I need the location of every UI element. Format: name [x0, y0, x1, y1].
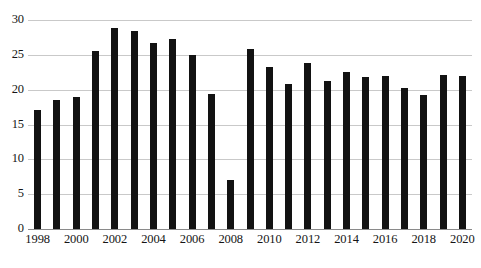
bar-series — [28, 20, 472, 229]
bar-2017 — [401, 88, 408, 229]
y-tick-label-10: 10 — [0, 152, 24, 165]
x-axis-baseline — [28, 229, 472, 230]
bar-2007 — [208, 94, 215, 229]
x-tick-label-2016: 2016 — [365, 232, 405, 246]
bar-2014 — [343, 72, 350, 229]
bar-2010 — [266, 67, 273, 229]
bar-2015 — [362, 77, 369, 229]
bar-2011 — [285, 84, 292, 229]
x-tick-label-2006: 2006 — [172, 232, 212, 246]
bar-2019 — [440, 75, 447, 229]
x-tick-label-2000: 2000 — [56, 232, 96, 246]
x-tick-label-2002: 2002 — [95, 232, 135, 246]
y-tick-label-30: 30 — [0, 13, 24, 26]
bar-2002 — [111, 28, 118, 229]
bar-2001 — [92, 51, 99, 229]
bar-2018 — [420, 95, 427, 229]
x-tick-label-1998: 1998 — [18, 232, 58, 246]
y-tick-label-20: 20 — [0, 83, 24, 96]
bar-chart: 051015202530 199820002002200420062008201… — [0, 0, 481, 268]
bar-2009 — [247, 49, 254, 229]
bar-2020 — [459, 76, 466, 229]
x-tick-label-2014: 2014 — [327, 232, 367, 246]
y-tick-label-5: 5 — [0, 187, 24, 200]
x-tick-label-2008: 2008 — [211, 232, 251, 246]
x-tick-label-2004: 2004 — [133, 232, 173, 246]
bar-2004 — [150, 43, 157, 229]
bar-2005 — [169, 39, 176, 229]
y-axis-tick-labels: 051015202530 — [0, 20, 24, 229]
bar-1999 — [53, 100, 60, 229]
bar-2008 — [227, 180, 234, 229]
plot-area — [28, 20, 472, 229]
bar-2006 — [189, 55, 196, 229]
bar-2013 — [324, 81, 331, 229]
x-axis-tick-labels: 1998200020022004200620082010201220142016… — [28, 232, 472, 252]
x-tick-label-2020: 2020 — [442, 232, 481, 246]
y-tick-label-15: 15 — [0, 118, 24, 131]
x-tick-label-2012: 2012 — [288, 232, 328, 246]
bar-2016 — [382, 76, 389, 229]
x-tick-label-2018: 2018 — [404, 232, 444, 246]
x-tick-label-2010: 2010 — [249, 232, 289, 246]
y-tick-label-25: 25 — [0, 48, 24, 61]
bar-2003 — [131, 31, 138, 229]
bar-2000 — [73, 97, 80, 229]
bar-1998 — [34, 110, 41, 229]
bar-2012 — [304, 63, 311, 230]
